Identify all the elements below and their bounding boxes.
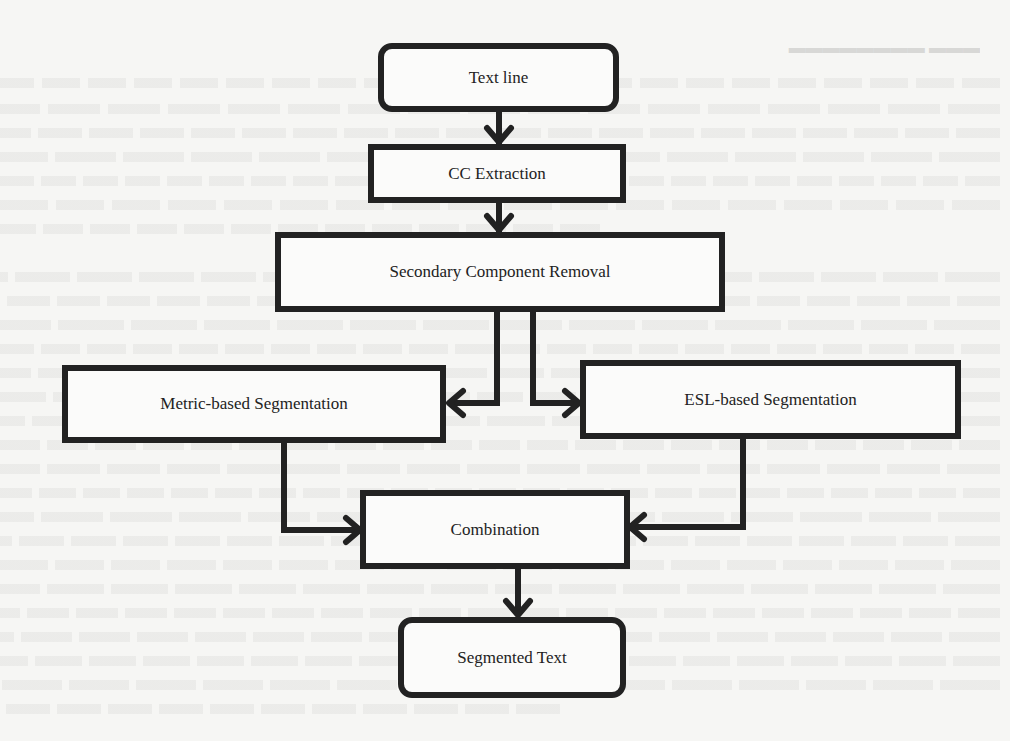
node-metric-based-segmentation: Metric-based Segmentation	[62, 365, 446, 443]
node-label: Text line	[469, 68, 529, 88]
node-cc-extraction: CC Extraction	[368, 144, 626, 203]
edge-scr-metric	[451, 311, 497, 403]
node-label: Segmented Text	[457, 648, 566, 668]
node-label: Combination	[451, 520, 540, 540]
node-esl-based-segmentation: ESL-based Segmentation	[580, 360, 961, 439]
node-secondary-component-removal: Secondary Component Removal	[275, 232, 725, 312]
edge-scr-esl	[533, 311, 576, 403]
node-combination: Combination	[360, 490, 630, 569]
node-label: Metric-based Segmentation	[160, 394, 347, 414]
edge-esl-combination	[633, 438, 743, 527]
node-text-line: Text line	[378, 43, 619, 112]
node-segmented-text: Segmented Text	[398, 617, 626, 698]
node-label: CC Extraction	[448, 164, 546, 184]
node-label: Secondary Component Removal	[390, 262, 611, 282]
node-label: ESL-based Segmentation	[684, 390, 856, 410]
